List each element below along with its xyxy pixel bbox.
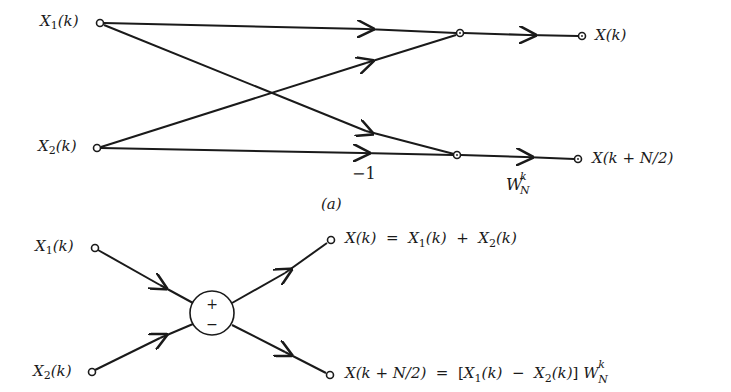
label-x2-b: X2(k) xyxy=(33,364,71,381)
node-out-bottom-b xyxy=(327,372,334,379)
label-out-top-a: X(k) xyxy=(595,28,626,43)
node-out-top-b xyxy=(328,237,335,244)
caption-a: (a) xyxy=(321,197,342,212)
branch-gain-label: −1 xyxy=(352,166,376,182)
equation-top-b: X(k) = X1(k) + X2(k) xyxy=(345,231,517,249)
node-x1-a xyxy=(97,20,104,27)
plus-sign: + xyxy=(206,296,218,312)
node-x2-b xyxy=(89,369,96,376)
label-x1-b: X1(k) xyxy=(35,239,73,256)
twiddle-factor-a: WkN xyxy=(506,177,522,193)
equation-bottom-b: X(k + N/2) = [X1(k) − X2(k)] WkN xyxy=(345,366,609,384)
node-x1-b xyxy=(92,245,99,252)
label-x1-a: X1(k) xyxy=(40,14,78,31)
label-x2-a: X2(k) xyxy=(38,139,76,156)
butterfly-diagram: + − xyxy=(0,0,731,392)
node-x2-a xyxy=(94,145,101,152)
minus-sign: − xyxy=(206,316,218,332)
figure-a-edges xyxy=(101,23,578,159)
label-out-bottom-a: X(k + N/2) xyxy=(592,151,673,166)
